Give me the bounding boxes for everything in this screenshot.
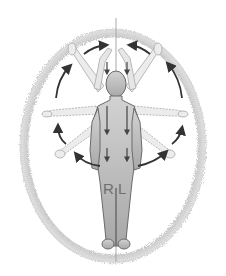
figure-arm-right [90,108,100,170]
diagram-canvas [0,0,226,276]
figure-head [106,71,126,97]
figure-arm-left [132,108,142,170]
label-right: R [103,180,114,197]
human-figure [90,71,142,249]
figure-torso [94,96,138,246]
arrow-mid-right [172,128,182,144]
arrow-lower-right [138,152,166,166]
label-left: L [118,180,126,197]
arrow-upper-left [56,66,70,98]
arrow-mid-left [58,126,66,144]
arrow-top-left [84,45,106,54]
